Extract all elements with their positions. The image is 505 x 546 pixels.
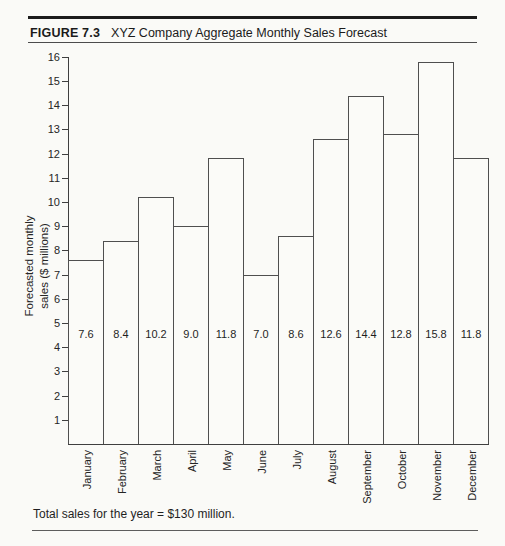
y-tick-label-2: 2 — [30, 389, 60, 403]
bar-value-february: 8.4 — [103, 327, 139, 341]
x-tick-july: July — [290, 450, 304, 520]
x-axis-baseline — [68, 444, 489, 445]
bar-march — [138, 197, 174, 445]
y-tick-mark-12 — [62, 154, 68, 155]
x-tick-november: November — [430, 450, 444, 520]
bar-value-march: 10.2 — [138, 327, 174, 341]
y-tick-mark-9 — [62, 226, 68, 227]
y-tick-label-4: 4 — [30, 340, 60, 354]
figure-page: FIGURE 7.3XYZ Company Aggregate Monthly … — [0, 0, 505, 546]
bar-august — [313, 139, 349, 445]
x-tick-august: August — [325, 450, 339, 520]
bar-june — [243, 275, 279, 445]
y-tick-label-14: 14 — [30, 98, 60, 112]
y-tick-label-1: 1 — [30, 413, 60, 427]
bar-value-september: 14.4 — [348, 327, 384, 341]
bottom-rule — [32, 530, 478, 531]
bar-value-june: 7.0 — [243, 327, 279, 341]
y-tick-label-13: 13 — [30, 122, 60, 136]
bar-november — [418, 62, 454, 445]
y-tick-label-6: 6 — [30, 292, 60, 306]
x-tick-december: December — [465, 450, 479, 520]
y-tick-mark-13 — [62, 129, 68, 130]
bar-october — [383, 134, 419, 445]
bar-february — [103, 241, 139, 445]
bar-value-october: 12.8 — [383, 327, 419, 341]
y-tick-label-16: 16 — [30, 50, 60, 64]
y-tick-mark-10 — [62, 202, 68, 203]
bar-value-august: 12.6 — [313, 327, 349, 341]
y-tick-label-15: 15 — [30, 74, 60, 88]
bar-january — [68, 260, 104, 445]
bar-value-july: 8.6 — [278, 327, 314, 341]
y-tick-label-8: 8 — [30, 243, 60, 257]
monthly-sales-bar-chart: Forecasted monthly sales ($ millions) 12… — [0, 0, 505, 546]
x-tick-june: June — [255, 450, 269, 520]
bar-value-april: 9.0 — [173, 327, 209, 341]
y-tick-mark-16 — [62, 57, 68, 58]
bar-september — [348, 96, 384, 445]
y-tick-label-7: 7 — [30, 268, 60, 282]
y-tick-mark-8 — [62, 250, 68, 251]
bar-december — [453, 158, 489, 445]
y-tick-mark-15 — [62, 81, 68, 82]
y-tick-label-5: 5 — [30, 316, 60, 330]
y-tick-mark-11 — [62, 178, 68, 179]
y-tick-mark-14 — [62, 105, 68, 106]
bar-value-january: 7.6 — [68, 327, 104, 341]
bar-value-november: 15.8 — [418, 327, 454, 341]
bar-value-december: 11.8 — [453, 327, 489, 341]
bar-may — [208, 158, 244, 445]
bar-value-may: 11.8 — [208, 327, 244, 341]
y-tick-label-9: 9 — [30, 219, 60, 233]
x-tick-october: October — [395, 450, 409, 520]
x-tick-september: September — [360, 450, 374, 520]
y-tick-label-10: 10 — [30, 195, 60, 209]
total-sales-note: Total sales for the year = $130 million. — [33, 507, 235, 522]
y-tick-label-11: 11 — [30, 171, 60, 185]
y-tick-label-12: 12 — [30, 147, 60, 161]
y-tick-label-3: 3 — [30, 364, 60, 378]
